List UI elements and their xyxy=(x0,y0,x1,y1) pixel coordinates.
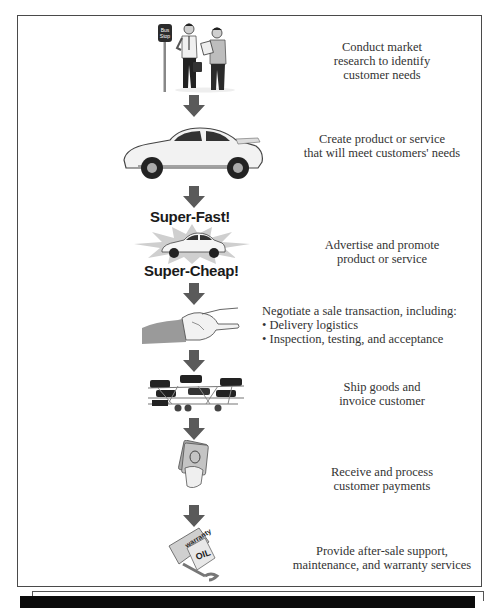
bullet-inspection: • Inspection, testing, and acceptance xyxy=(262,332,484,346)
step-create-product-text: Create product or service that will meet… xyxy=(280,132,484,160)
process-frame xyxy=(17,15,482,587)
bus-stop-people-icon: Bus Stop xyxy=(155,20,245,96)
flow-arrow-down-icon xyxy=(183,350,205,372)
cash-in-hand-icon xyxy=(175,440,215,490)
step-advertise-text: Advertise and promote product or service xyxy=(280,238,484,266)
flow-arrow-down-icon xyxy=(183,418,205,440)
bullet-delivery-logistics: • Delivery logistics xyxy=(262,318,484,332)
car-carrier-truck-icon xyxy=(148,372,244,412)
advertising-burst-car-icon xyxy=(132,224,252,264)
step-negotiate-text: Negotiate a sale transaction, including:… xyxy=(262,304,484,346)
next-frame-header-bar xyxy=(20,596,475,608)
flow-arrow-down-icon xyxy=(183,186,205,208)
super-cheap-label: Super-Cheap! xyxy=(144,262,239,279)
flow-arrow-down-icon xyxy=(183,283,205,305)
sports-car-icon xyxy=(118,124,268,184)
svg-text:Stop: Stop xyxy=(160,33,171,39)
flow-arrow-down-icon xyxy=(183,95,205,117)
super-fast-label: Super-Fast! xyxy=(150,208,230,225)
step-payments-text: Receive and process customer payments xyxy=(280,465,484,493)
step-market-research-text: Conduct market research to identify cust… xyxy=(280,40,484,82)
handshake-icon xyxy=(142,306,242,346)
step-ship-text: Ship goods and invoice customer xyxy=(280,380,484,408)
step-after-sale-text: Provide after-sale support, maintenance,… xyxy=(280,544,484,572)
warranty-oil-wrench-icon: warranty OIL xyxy=(165,524,225,582)
